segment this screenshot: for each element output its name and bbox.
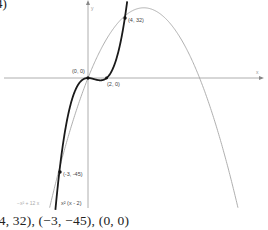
point-2-0 (105, 77, 108, 80)
label-point-2-0: (2, 0) (107, 81, 120, 87)
label-cubic: x² (x - 2) (61, 200, 82, 206)
x-axis-arrow-icon (259, 76, 264, 80)
label-point-4-32: (4, 32) (128, 17, 144, 23)
label-point-neg3-neg45: (-3, -45) (63, 171, 83, 177)
point-4-32 (123, 16, 126, 19)
point-0-0 (86, 76, 89, 79)
cubic-curve (55, 1, 127, 209)
x-axis-label: x (256, 69, 259, 75)
y-axis-arrow-icon (86, 0, 90, 5)
label-point-0-0: (0, 0) (72, 68, 85, 74)
point-neg3-neg45 (58, 170, 61, 173)
answer-text: (4, 32), (−3, −45), (0, 0) (0, 213, 129, 229)
parabola-curve (50, 8, 238, 208)
y-axis-label: y (91, 5, 94, 11)
label-parabola: −x² + 12 x (17, 200, 40, 206)
graph: x y (4, 32) (0, 0) (2, 0) (-3, -45) x² (… (0, 0, 268, 230)
